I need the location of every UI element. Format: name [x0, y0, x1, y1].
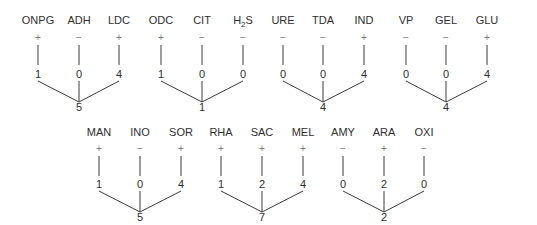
score-value: 0 [240, 68, 246, 80]
group-sum: 2 [381, 211, 387, 223]
test-label: SOR [169, 126, 193, 138]
test-label-tail: S [246, 14, 253, 26]
score-value: 0 [320, 68, 326, 80]
connector-diagonal [384, 191, 424, 212]
result-sign: − [340, 143, 346, 154]
test-label: MEL [292, 126, 315, 138]
group-sum: 5 [137, 211, 143, 223]
connector-diagonal [446, 81, 487, 102]
test-label: VP [399, 14, 414, 26]
result-sign: + [178, 143, 184, 154]
result-sign: − [320, 32, 326, 43]
test-label: INO [130, 126, 150, 138]
score-value: 4 [178, 178, 184, 190]
group-sum: 5 [76, 101, 82, 113]
group-sum: 7 [259, 211, 265, 223]
score-value: 0 [421, 178, 427, 190]
score-value: 0 [443, 68, 449, 80]
result-sign: + [361, 32, 367, 43]
score-value: 1 [96, 178, 102, 190]
score-value: 0 [340, 178, 346, 190]
result-sign: + [381, 143, 387, 154]
test-group: MAN+1INO−0SOR+45 [87, 126, 193, 223]
biochemical-profile-diagram: ONPG+1ADH−0LDC+45ODC+1CIT−0H2S−01URE−0TD… [0, 0, 537, 225]
score-value: 2 [259, 178, 265, 190]
test-label: URE [271, 14, 294, 26]
test-label: ARA [373, 126, 396, 138]
score-value: 4 [300, 178, 306, 190]
result-sign: − [421, 143, 427, 154]
test-group: URE−0TDA−0IND+44 [271, 14, 373, 113]
result-sign: + [116, 32, 122, 43]
group-sum: 1 [199, 101, 205, 113]
result-sign: + [259, 143, 265, 154]
score-value: 1 [218, 178, 224, 190]
connector-diagonal [262, 191, 303, 212]
test-label: SAC [251, 126, 274, 138]
test-label: CIT [193, 14, 211, 26]
connector-diagonal [140, 191, 181, 212]
test-label: RHA [209, 126, 233, 138]
test-label: AMY [331, 126, 356, 138]
test-label: OXI [415, 126, 434, 138]
result-sign: − [199, 32, 205, 43]
score-value: 4 [116, 68, 122, 80]
connector-diagonal [283, 81, 323, 102]
test-label: GEL [435, 14, 457, 26]
test-label: ADH [67, 14, 90, 26]
connector-diagonal [406, 81, 446, 102]
result-sign: + [96, 143, 102, 154]
test-label: IND [355, 14, 374, 26]
score-value: 0 [199, 68, 205, 80]
result-sign: + [158, 32, 164, 43]
test-label: H2S [233, 14, 253, 29]
result-sign: + [300, 143, 306, 154]
test-group: RHA+1SAC+2MEL+47 [209, 126, 314, 223]
score-value: 4 [484, 68, 490, 80]
test-group: ONPG+1ADH−0LDC+45 [22, 14, 130, 113]
connector-diagonal [99, 191, 140, 212]
score-value: 0 [76, 68, 82, 80]
test-label: ONPG [22, 14, 54, 26]
connector-diagonal [343, 191, 384, 212]
connector-diagonal [38, 81, 79, 102]
test-label: ODC [149, 14, 174, 26]
test-group: AMY−0ARA+2OXI−02 [331, 126, 433, 223]
test-label: GLU [476, 14, 499, 26]
result-sign: − [137, 143, 143, 154]
score-value: 4 [361, 68, 367, 80]
connector-diagonal [79, 81, 119, 102]
test-label: TDA [312, 14, 335, 26]
test-group: VP−0GEL−0GLU+44 [399, 14, 499, 113]
connector-diagonal [323, 81, 364, 102]
result-sign: − [240, 32, 246, 43]
score-value: 0 [137, 178, 143, 190]
group-sum: 4 [443, 101, 449, 113]
group-sum: 4 [320, 101, 326, 113]
connector-diagonal [161, 81, 202, 102]
result-sign: − [443, 32, 449, 43]
result-sign: + [484, 32, 490, 43]
result-sign: − [280, 32, 286, 43]
score-value: 1 [158, 68, 164, 80]
test-label: MAN [87, 126, 112, 138]
result-sign: − [76, 32, 82, 43]
score-value: 0 [403, 68, 409, 80]
result-sign: − [403, 32, 409, 43]
test-label: LDC [108, 14, 130, 26]
score-value: 1 [35, 68, 41, 80]
connector-diagonal [202, 81, 243, 102]
score-value: 2 [381, 178, 387, 190]
result-sign: + [35, 32, 41, 43]
score-value: 0 [280, 68, 286, 80]
connector-diagonal [221, 191, 262, 212]
test-label-main: H [233, 14, 241, 26]
profile-number-tree: ONPG+1ADH−0LDC+45ODC+1CIT−0H2S−01URE−0TD… [0, 0, 537, 225]
result-sign: + [218, 143, 224, 154]
test-group: ODC+1CIT−0H2S−01 [149, 14, 253, 113]
